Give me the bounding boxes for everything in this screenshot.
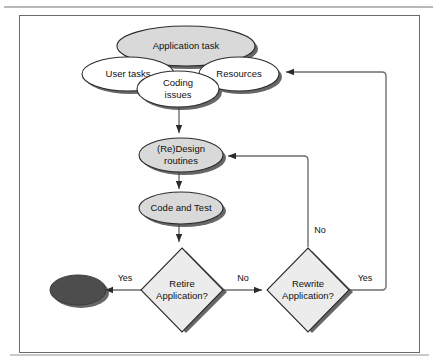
application-task-label: Application task [153,40,220,51]
edge-label-rewrite-yes: Yes [358,273,373,283]
node-coding-issues[interactable]: Coding issues [137,71,219,107]
node-code-and-test[interactable]: Code and Test [139,192,223,224]
node-terminal-end[interactable] [50,275,106,305]
flowchart-diagram: Application task User tasks Resources Co… [0,0,437,362]
coding-issues-label-line2: issues [165,89,192,100]
code-and-test-label: Code and Test [150,202,211,213]
edge-label-retire-no: No [237,273,249,283]
coding-issues-label-line1: Coding [163,77,193,88]
resources-label: Resources [216,68,262,79]
retire-application-label-line2: Application? [156,290,208,301]
redesign-routines-label-line2: routines [164,155,198,166]
figure-root: ..... [0,0,437,362]
node-redesign-routines[interactable]: (Re)Design routines [139,138,223,172]
terminal-end-shape [50,275,106,305]
redesign-routines-label-line1: (Re)Design [157,143,205,154]
rewrite-application-label-line2: Application? [282,290,334,301]
edge-label-retire-yes: Yes [118,273,133,283]
rewrite-application-label-line1: Rewrite [292,278,324,289]
edge-label-rewrite-no: No [314,225,326,235]
retire-application-label-line1: Retire [169,278,194,289]
user-tasks-label: User tasks [106,68,151,79]
